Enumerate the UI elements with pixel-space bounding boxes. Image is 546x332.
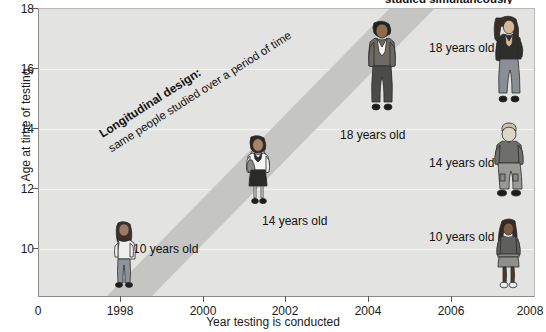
person-figure-cross-14 (489, 122, 529, 202)
y-tick-mark-10 (32, 248, 38, 249)
x-tick-mark-2000 (203, 296, 204, 302)
x-axis-title: Year testing is conducted (0, 315, 546, 329)
label-cross-14: 14 years old (429, 156, 494, 170)
x-tick-mark-1998 (120, 296, 121, 302)
gridline-12 (39, 189, 534, 190)
longitudinal-design-chart: 18 16 14 12 10 Age at time of testing 0 … (0, 0, 546, 332)
label-longitudinal-14: 14 years old (262, 214, 327, 228)
person-figure-longitudinal-10 (108, 219, 140, 291)
label-longitudinal-10: 10 years old (133, 242, 198, 256)
y-tick-label-10: 10 (4, 242, 34, 256)
label-longitudinal-18: 18 years old (340, 128, 405, 142)
y-axis-title: Age at time of testing (19, 55, 33, 195)
cross-sectional-annotation-cropped: studied simultaneously (352, 0, 546, 4)
x-tick-mark-2006 (451, 296, 452, 302)
person-figure-longitudinal-18 (363, 18, 401, 116)
person-figure-cross-18 (490, 13, 528, 109)
gridline-16 (39, 69, 534, 70)
x-tick-mark-2002 (285, 296, 286, 302)
person-figure-longitudinal-14 (240, 133, 276, 213)
person-figure-cross-10 (492, 216, 526, 292)
y-tick-label-18: 18 (4, 2, 34, 16)
label-cross-18: 18 years old (429, 41, 494, 55)
x-tick-mark-2004 (368, 296, 369, 302)
y-tick-mark-18 (32, 8, 38, 9)
label-cross-10: 10 years old (429, 230, 494, 244)
